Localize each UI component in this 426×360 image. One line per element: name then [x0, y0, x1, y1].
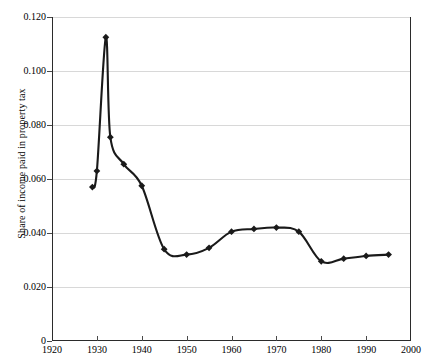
data-point-marker [273, 224, 280, 231]
data-point-marker [102, 34, 109, 41]
data-point-marker [340, 255, 347, 262]
data-line [92, 37, 388, 263]
data-point-marker [107, 134, 114, 141]
data-point-marker [363, 253, 370, 260]
data-point-marker [251, 226, 258, 233]
data-series-layer [0, 0, 426, 360]
data-point-marker [183, 251, 190, 258]
data-point-marker [93, 168, 100, 175]
data-point-marker [385, 251, 392, 258]
chart-figure: Share of income paid in property tax 00.… [0, 0, 426, 360]
